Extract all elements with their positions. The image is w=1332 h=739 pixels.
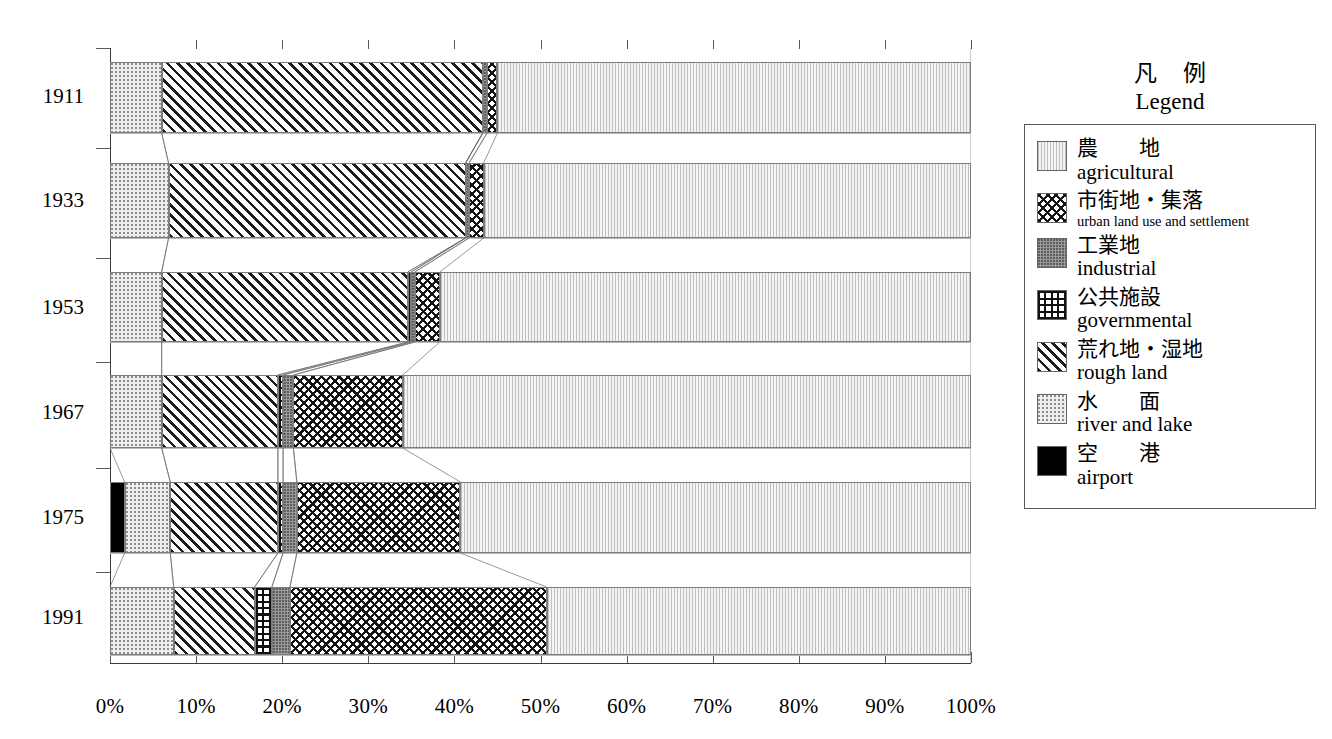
bar-segment-water [110,587,174,655]
y-axis-category-label: 1933 [0,188,96,213]
bar-segment-agricultural [440,272,971,342]
y-axis-category-label: 1975 [0,505,96,530]
x-axis-tick-top [541,40,542,49]
y-axis-category-label: 1911 [0,84,96,109]
legend-title-english: Legend [1024,88,1316,116]
y-axis-tick [96,258,110,259]
bar-segment-agricultural [460,482,971,553]
x-axis-label: 30% [328,694,408,719]
x-axis-tick [971,652,972,663]
bar-segment-industrial [283,375,293,448]
legend-label-english: agricultural [1077,161,1305,185]
legend-item-text: 荒れ地・湿地rough land [1077,338,1305,385]
legend-swatch-urban-icon [1037,193,1067,223]
x-axis-tick-top [971,40,972,49]
bar-row [110,482,971,553]
legend: 凡 例 Legend 農 地agricultural市街地・集落urban la… [1024,60,1316,509]
bar-segment-water [125,482,171,553]
category-separator [110,553,971,554]
legend-label-english: airport [1077,466,1305,490]
bar-segment-urban [415,272,440,342]
legend-item-text: 空 港airport [1077,442,1305,489]
legend-item-water[interactable]: 水 面river and lake [1037,390,1305,437]
legend-title: 凡 例 Legend [1024,60,1316,116]
bar-row [110,272,971,342]
legend-item-text: 農 地agricultural [1077,137,1305,184]
bar-segment-agricultural [403,375,971,448]
legend-title-japanese: 凡 例 [1024,60,1316,88]
x-axis-tick-top [282,40,283,49]
x-axis-label: 20% [242,694,322,719]
legend-label-japanese: 工業地 [1077,234,1305,258]
legend-label-japanese: 空 港 [1077,442,1305,466]
x-axis-tick-top [368,40,369,49]
y-axis-tick [96,48,110,49]
legend-swatch-airport-icon [1037,446,1067,476]
category-separator [110,342,971,343]
bar-row [110,163,971,238]
legend-swatch-agricultural-icon [1037,141,1067,171]
y-axis-tick [96,572,110,573]
legend-label-english: urban land use and settlement [1077,213,1305,229]
legend-label-japanese: 市街地・集落 [1077,189,1305,213]
stacked-bar-chart: 0%10%20%30%40%50%60%70%80%90%100%1911193… [0,0,1010,739]
bar-segment-rough [170,482,278,553]
x-axis-label: 80% [759,694,839,719]
category-separator [110,133,971,134]
y-axis-category-label: 1967 [0,400,96,425]
legend-item-agricultural[interactable]: 農 地agricultural [1037,137,1305,184]
bar-segment-agricultural [497,62,971,133]
bar-segment-rough [174,587,255,655]
legend-item-text: 工業地industrial [1077,234,1305,281]
x-axis-label: 40% [414,694,494,719]
legend-item-governmental[interactable]: 公共施設governmental [1037,286,1305,333]
legend-swatch-rough-icon [1037,342,1067,372]
plot-area [110,48,971,663]
bar-segment-water [110,163,169,238]
bar-segment-urban [290,587,547,655]
legend-item-industrial[interactable]: 工業地industrial [1037,234,1305,281]
bar-segment-agricultural [484,163,971,238]
legend-swatch-industrial-icon [1037,238,1067,268]
bar-segment-rough [162,272,408,342]
legend-box: 農 地agricultural市街地・集落urban land use and … [1024,124,1316,509]
bar-segment-agricultural [547,587,971,655]
x-axis-label: 100% [931,694,1011,719]
bar-segment-airport [110,482,125,553]
legend-label-english: industrial [1077,257,1305,281]
x-axis-tick-top [885,40,886,49]
x-axis-tick-top [799,40,800,49]
y-axis-tick [96,362,110,363]
bar-segment-governmental [255,587,272,655]
bar-segment-urban [297,482,461,553]
y-axis-tick [96,148,110,149]
x-axis-tick-top [454,40,455,49]
legend-swatch-water-icon [1037,394,1067,424]
legend-item-text: 市街地・集落urban land use and settlement [1077,189,1305,229]
legend-label-japanese: 水 面 [1077,390,1305,414]
x-axis-tick-top [713,40,714,49]
x-axis-label: 0% [70,694,150,719]
bar-segment-water [110,272,162,342]
legend-item-urban[interactable]: 市街地・集落urban land use and settlement [1037,189,1305,229]
x-axis-label: 50% [501,694,581,719]
legend-label-japanese: 農 地 [1077,137,1305,161]
bar-row [110,375,971,448]
y-axis-category-label: 1953 [0,295,96,320]
category-separator [110,238,971,239]
x-axis-tick-top [627,40,628,49]
legend-label-english: rough land [1077,361,1305,385]
y-axis-category-label: 1991 [0,605,96,630]
bar-segment-water [110,375,162,448]
category-separator [110,448,971,449]
x-axis-label: 60% [587,694,667,719]
legend-item-rough[interactable]: 荒れ地・湿地rough land [1037,338,1305,385]
legend-item-text: 水 面river and lake [1077,390,1305,437]
legend-swatch-governmental-icon [1037,290,1067,320]
bar-segment-urban [469,163,484,238]
legend-item-airport[interactable]: 空 港airport [1037,442,1305,489]
x-axis-label: 90% [845,694,925,719]
bar-segment-urban [487,62,497,133]
x-axis-line [110,663,971,664]
category-separator [110,655,971,656]
